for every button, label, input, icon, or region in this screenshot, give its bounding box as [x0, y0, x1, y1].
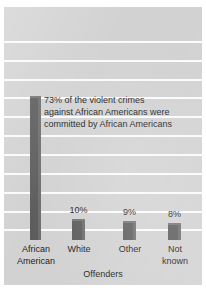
value-label-white: 10%: [63, 205, 94, 216]
category-label-line-2: American: [4, 255, 68, 267]
bar-chart-figure: 10% 9% 8% 73% of the violent crimes agai…: [0, 0, 206, 291]
gridline: [4, 60, 202, 62]
gridline: [4, 41, 202, 43]
chart-annotation: 73% of the violent crimes against Africa…: [44, 94, 196, 131]
annotation-line-1: 73% of the violent crimes: [44, 94, 196, 106]
bar-side: [133, 221, 136, 240]
category-label-line-2: known: [145, 255, 202, 267]
bar-cap: [72, 219, 85, 221]
bar-african-american: [30, 96, 41, 240]
bar-side: [178, 223, 181, 240]
bar-side: [82, 219, 85, 240]
annotation-line-2: against African Americans were: [44, 106, 196, 118]
category-label-not-known: Not known: [145, 243, 202, 267]
chart-panel: 10% 9% 8% 73% of the violent crimes agai…: [4, 7, 202, 285]
x-axis-title: Offenders: [4, 269, 202, 279]
bar-other: [123, 221, 136, 240]
value-label-other: 9%: [114, 207, 145, 218]
bar-cap: [30, 96, 41, 98]
bar-white: [72, 219, 85, 240]
bar-side: [38, 96, 41, 240]
gridline: [4, 79, 202, 81]
bar-not-known: [168, 223, 181, 240]
bar-cap: [123, 221, 136, 223]
value-label-not-known: 8%: [159, 209, 190, 220]
annotation-line-3: committed by African Americans: [44, 118, 196, 130]
bar-cap: [168, 223, 181, 225]
category-label-line-1: Not: [145, 243, 202, 255]
